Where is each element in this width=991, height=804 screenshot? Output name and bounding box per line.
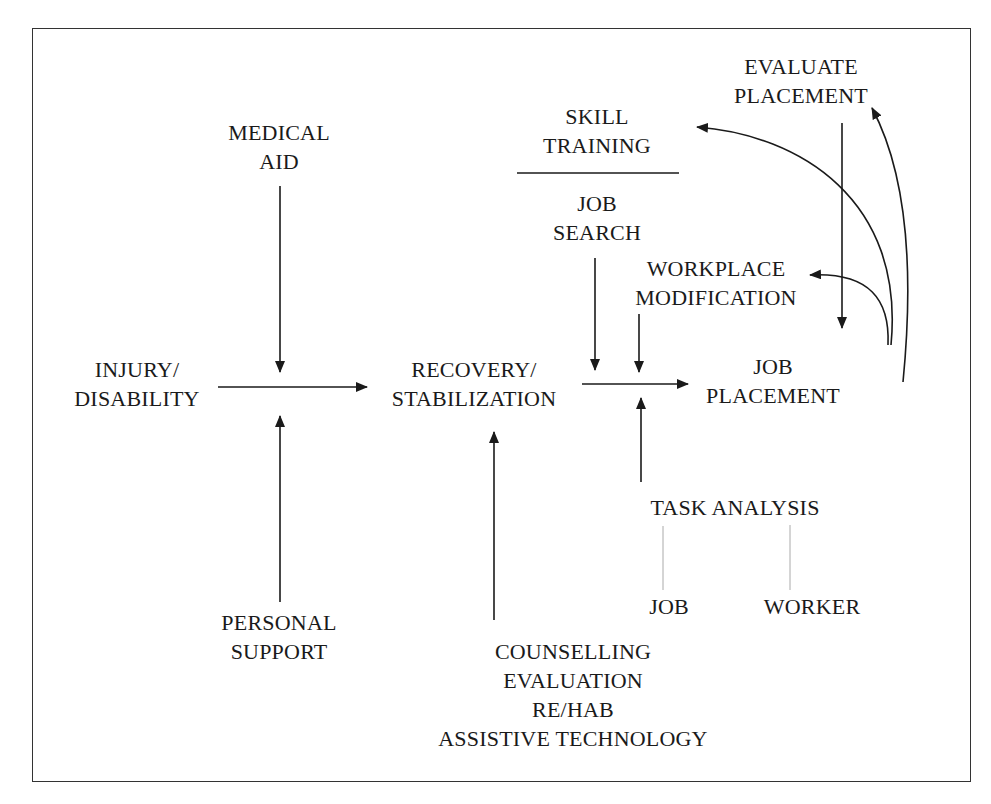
node-job: JOB [649,592,689,621]
node-recovery-stabilization: RECOVERY/ STABILIZATION [392,355,557,413]
node-medical-aid: MEDICAL AID [228,118,330,176]
node-workplace-modification: WORKPLACE MODIFICATION [635,254,796,312]
node-personal-support: PERSONAL SUPPORT [221,608,336,666]
node-worker: WORKER [764,592,861,621]
curve-to-evaluate-placement [872,108,908,382]
node-injury-disability: INJURY/ DISABILITY [74,355,199,413]
node-skill-training: SKILL TRAINING [543,102,651,160]
curve-to-workplace-mod [810,275,888,345]
node-job-placement: JOB PLACEMENT [706,352,840,410]
node-job-search: JOB SEARCH [553,189,641,247]
node-task-analysis: TASK ANALYSIS [650,493,819,522]
curve-to-skill-training [697,127,892,345]
node-counselling-group: COUNSELLING EVALUATION RE/HAB ASSISTIVE … [438,637,707,753]
node-evaluate-placement: EVALUATE PLACEMENT [734,52,868,110]
